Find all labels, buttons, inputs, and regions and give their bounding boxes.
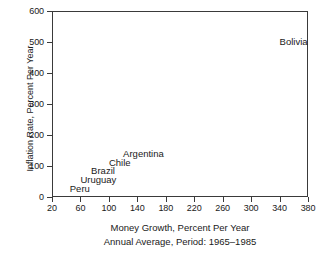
chart-page: 0100200300400500600 20601001401802202603… [0,0,327,258]
x-axis-subtitle: Annual Average, Period: 1965–1985 [52,236,308,247]
x-tick-180 [166,197,167,202]
x-tick-220 [194,197,195,202]
x-tick-300 [251,197,252,202]
y-axis-title: Inflation Rate, Percent Per Year [26,16,35,202]
y-tick-500 [47,42,52,43]
point-label-peru: Peru [70,184,90,194]
y-tick-label-0: 0 [39,193,44,202]
x-tick-label-300: 300 [244,204,259,213]
x-tick-60 [80,197,81,202]
x-tick-label-20: 20 [47,204,57,213]
y-tick-400 [47,73,52,74]
x-tick-label-180: 180 [158,204,173,213]
y-tick-600 [47,11,52,12]
y-tick-label-600: 600 [29,7,44,16]
y-tick-200 [47,135,52,136]
x-tick-380 [308,197,309,202]
x-tick-label-60: 60 [76,204,86,213]
x-tick-340 [280,197,281,202]
y-tick-300 [47,104,52,105]
x-tick-label-220: 220 [187,204,202,213]
x-tick-140 [137,197,138,202]
y-tick-100 [47,166,52,167]
point-label-bolivia: Bolivia [280,37,308,47]
x-tick-20 [52,197,53,202]
x-tick-label-260: 260 [215,204,230,213]
x-tick-260 [223,197,224,202]
x-axis-title: Money Growth, Percent Per Year [52,222,308,233]
x-tick-label-380: 380 [301,204,316,213]
x-tick-label-140: 140 [130,204,145,213]
x-tick-label-100: 100 [102,204,117,213]
x-tick-label-340: 340 [272,204,287,213]
x-tick-100 [109,197,110,202]
